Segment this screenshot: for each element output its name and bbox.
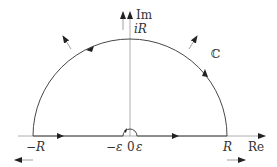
top-label: iR: [134, 22, 147, 36]
pos-r-label: R: [222, 140, 232, 154]
contour-diagram: Im iR ℂ −R −ε 0 ε R Re: [0, 0, 277, 167]
re-axis-label: Re: [248, 140, 264, 154]
direction-arrow-left-segment: [57, 133, 64, 139]
plane-label: ℂ: [211, 47, 221, 61]
pos-eps-label: ε: [136, 140, 142, 154]
im-axis-label: Im: [136, 8, 153, 22]
expand-arrow-up-right: [189, 36, 197, 49]
neg-r-label: −R: [26, 140, 45, 154]
expand-arrow-up-left: [63, 36, 71, 49]
direction-arrow-arc-right: [202, 69, 208, 77]
origin-label: 0: [127, 140, 135, 154]
direction-arrow-right-segment: [172, 133, 179, 139]
neg-eps-label: −ε: [106, 140, 123, 154]
